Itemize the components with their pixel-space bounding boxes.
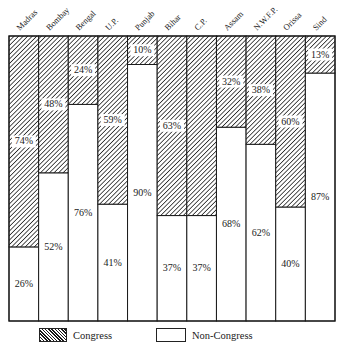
value-label-congress-sind: 13% <box>311 49 329 60</box>
value-label-non-congress-u-p: 41% <box>104 257 122 268</box>
category-label-u-p: U.P. <box>103 15 120 32</box>
value-label-non-congress-bombay: 52% <box>44 241 62 252</box>
value-label-non-congress-madras: 26% <box>15 278 33 289</box>
value-label-congress-punjab: 10% <box>133 44 151 55</box>
value-label-non-congress-sind: 87% <box>311 191 329 202</box>
legend-swatch-congress <box>39 328 67 342</box>
bar-congress-c-p <box>187 36 217 216</box>
legend: Congress Non-Congress <box>0 324 342 347</box>
category-label-assam: Assam <box>222 9 246 33</box>
stacked-bar-chart: MadrasBombayBengalU.P.PunjabBiharC.P.Ass… <box>0 0 342 324</box>
value-label-non-congress-n-w-f-p: 62% <box>252 227 270 238</box>
value-label-congress-bengal: 24% <box>74 64 92 75</box>
category-label-punjab: Punjab <box>133 9 157 33</box>
category-label-bombay: Bombay <box>44 4 72 32</box>
value-label-congress-assam: 32% <box>222 76 240 87</box>
value-label-non-congress-punjab: 90% <box>133 187 151 198</box>
category-label-madras: Madras <box>14 7 39 32</box>
category-label-sind: Sind <box>311 14 330 33</box>
category-label-bengal: Bengal <box>73 8 98 33</box>
value-label-non-congress-bihar: 37% <box>163 262 181 273</box>
category-labels-group: MadrasBombayBengalU.P.PunjabBiharC.P.Ass… <box>14 4 329 32</box>
value-label-congress-bombay: 48% <box>44 98 62 109</box>
value-label-congress-orissa: 60% <box>281 116 299 127</box>
value-label-non-congress-bengal: 76% <box>74 207 92 218</box>
bars-group <box>9 36 335 321</box>
legend-swatch-non-congress <box>156 328 186 342</box>
legend-label-congress: Congress <box>73 330 112 341</box>
value-label-non-congress-assam: 68% <box>222 218 240 229</box>
legend-item-non-congress: Non-Congress <box>156 328 253 342</box>
category-label-n-w-f-p: N.W.F.P. <box>251 4 279 32</box>
value-label-congress-bihar: 63% <box>163 120 181 131</box>
value-label-congress-n-w-f-p: 38% <box>252 84 270 95</box>
value-label-congress-u-p: 59% <box>104 114 122 125</box>
value-label-non-congress-orissa: 40% <box>281 258 299 269</box>
value-label-non-congress-c-p: 37% <box>192 262 210 273</box>
legend-item-congress: Congress <box>39 328 112 342</box>
category-label-c-p: C.P. <box>192 16 209 33</box>
value-label-congress-madras: 74% <box>15 135 33 146</box>
legend-label-non-congress: Non-Congress <box>192 330 253 341</box>
category-label-orissa: Orissa <box>281 10 304 33</box>
category-label-bihar: Bihar <box>162 12 183 33</box>
